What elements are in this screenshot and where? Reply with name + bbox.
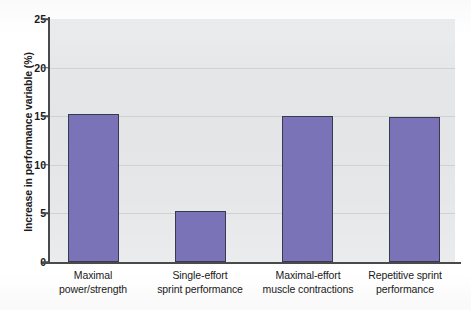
bar-maximal-power-strength[interactable] <box>68 114 119 262</box>
bar-single-effort-sprint[interactable] <box>175 211 226 262</box>
bar-maximal-effort-muscle[interactable] <box>282 116 333 262</box>
bars-layer <box>0 0 471 310</box>
bar-repetitive-sprint-performance[interactable] <box>389 117 440 262</box>
x-axis-category-labels: Maximalpower/strength Single-effortsprin… <box>0 269 471 309</box>
bar-chart-figure: Increase in performance variable (%) 25 … <box>0 0 471 310</box>
x-label-repetitive-sprint-performance: Repetitive sprintperformance <box>344 269 466 296</box>
